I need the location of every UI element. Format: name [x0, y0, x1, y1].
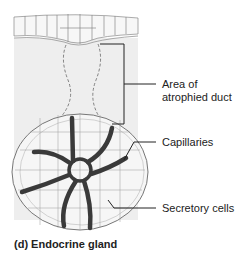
label-atrophied-duct: Area of atrophied duct — [162, 78, 232, 104]
endocrine-gland-diagram — [0, 0, 242, 256]
label-duct-line2: atrophied duct — [162, 91, 232, 104]
label-secretory-cells: Secretory cells — [162, 202, 234, 215]
label-capillaries: Capillaries — [162, 136, 213, 149]
figure-caption: (d) Endocrine gland — [14, 238, 117, 250]
gland-body — [12, 113, 148, 230]
label-duct-line1: Area of — [162, 78, 232, 91]
